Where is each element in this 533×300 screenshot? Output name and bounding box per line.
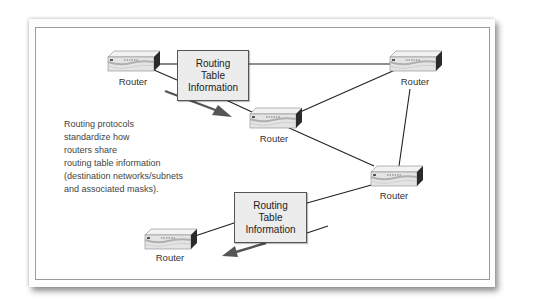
link-bottombox-stub (307, 226, 328, 233)
router-icon-r4 (371, 166, 423, 186)
arrow-bottom (222, 243, 266, 257)
link-r4-bottombox (307, 184, 375, 203)
router-icon-r5 (145, 229, 197, 249)
router-label-r4: Router (380, 190, 409, 201)
box-line: Routing (253, 200, 287, 212)
router-label-r1: Router (119, 76, 148, 87)
box-line: Routing (196, 58, 230, 70)
link-r3-r2 (300, 70, 395, 112)
box-line: Table (201, 70, 225, 82)
link-bottombox-r5 (195, 223, 234, 236)
box-line: Information (245, 224, 295, 236)
router-icon-r3 (250, 108, 302, 128)
description-line: standardize how (64, 131, 183, 144)
description-line: (destination networks/subnets (64, 170, 183, 183)
description-text: Routing protocols standardize how router… (64, 118, 183, 196)
description-line: routing table information (64, 157, 183, 170)
link-topbox-r3 (226, 100, 252, 112)
router-label-r3: Router (260, 133, 289, 144)
link-r3-r4 (287, 127, 374, 166)
router-label-r5: Router (156, 252, 185, 263)
routing-table-info-box-bottom: Routing Table Information (234, 192, 307, 243)
router-icon-r1 (108, 51, 160, 71)
router-icon-r2 (390, 51, 442, 71)
link-r1-topbox-lower (154, 70, 177, 80)
box-line: Information (188, 82, 238, 94)
description-line: Routing protocols (64, 118, 183, 131)
router-label-r2: Router (401, 76, 430, 87)
box-line: Table (259, 212, 283, 224)
routing-table-info-box-top: Routing Table Information (177, 50, 249, 101)
description-line: routers share (64, 144, 183, 157)
link-r2-r4 (399, 89, 410, 166)
description-line: and associated masks). (64, 183, 183, 196)
